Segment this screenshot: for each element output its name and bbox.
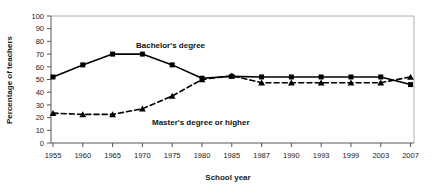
y-tick-label: 0: [40, 139, 44, 148]
line-chart: 0102030405060708090100 19551960196519701…: [0, 0, 436, 190]
x-tick-label: 2007: [402, 151, 419, 160]
data-point-marker: [289, 74, 294, 79]
series-line-bachelors: [53, 54, 411, 84]
data-point-marker: [348, 74, 353, 79]
series-layer: [53, 54, 411, 114]
marker-layer: [50, 52, 414, 118]
x-tick-label: 1955: [45, 151, 62, 160]
y-tick-label: 30: [36, 101, 44, 110]
x-axis-title: School year: [205, 173, 250, 182]
data-point-marker: [169, 93, 176, 99]
data-point-marker: [80, 62, 85, 67]
x-axis-ticks: [53, 143, 411, 147]
y-tick-label: 50: [36, 75, 44, 84]
data-point-marker: [378, 74, 383, 79]
x-tick-label: 1975: [164, 151, 181, 160]
y-tick-label: 80: [36, 37, 44, 46]
y-tick-label: 10: [36, 126, 44, 135]
data-point-marker: [110, 52, 115, 57]
series-annotation-bachelors: Bachelor's degree: [136, 41, 206, 50]
x-tick-label: 2003: [372, 151, 389, 160]
x-tick-label: 1980: [194, 151, 211, 160]
data-point-marker: [170, 62, 175, 67]
series-annotation-masters: Master's degree or higher: [152, 118, 250, 127]
x-tick-label: 1960: [74, 151, 91, 160]
data-point-marker: [319, 74, 324, 79]
series-line-masters: [53, 76, 411, 115]
x-tick-label: 1970: [134, 151, 151, 160]
x-tick-label: 1987: [253, 151, 270, 160]
y-tick-label: 90: [36, 24, 44, 33]
x-tick-label: 1965: [104, 151, 121, 160]
data-point-marker: [140, 52, 145, 57]
x-tick-label: 1999: [343, 151, 360, 160]
chart-canvas: 0102030405060708090100 19551960196519701…: [0, 0, 436, 190]
y-tick-label: 60: [36, 63, 44, 72]
y-tick-label: 70: [36, 50, 44, 59]
x-tick-label: 1993: [313, 151, 330, 160]
y-tick-label: 40: [36, 88, 44, 97]
x-axis-tick-labels: 1955196019651970197519801985198719901993…: [45, 151, 419, 160]
y-axis-title: Percentage of teachers: [5, 35, 14, 124]
y-tick-label: 100: [31, 12, 44, 21]
y-axis-tick-labels: 0102030405060708090100: [31, 12, 44, 148]
x-tick-label: 1990: [283, 151, 300, 160]
y-tick-label: 20: [36, 113, 44, 122]
data-point-marker: [259, 74, 264, 79]
y-axis-ticks: [47, 16, 51, 143]
data-point-marker: [408, 82, 413, 87]
x-tick-label: 1985: [223, 151, 240, 160]
data-point-marker: [51, 74, 56, 79]
